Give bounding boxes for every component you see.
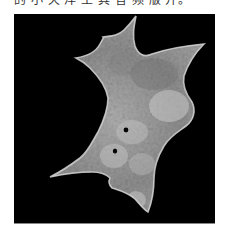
cell-image: [14, 14, 215, 223]
dark-spot-1: [124, 128, 129, 133]
micrograph-figure: [14, 14, 215, 224]
dark-spot-2: [113, 148, 117, 153]
caption-text: 的 小 天 洋 土 其 音 频 版 开。: [14, 0, 190, 7]
